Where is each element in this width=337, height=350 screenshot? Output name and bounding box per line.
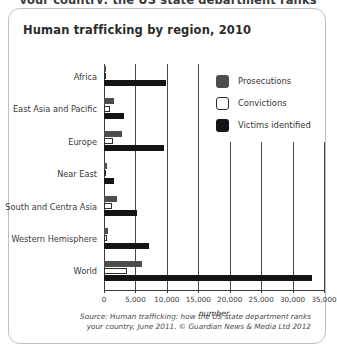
- x-tick-label-20000: 20,000: [217, 295, 242, 304]
- source-line-1: Source: Human trafficking: how the US st…: [80, 312, 311, 321]
- x-tick-label-5000: 5,000: [125, 295, 146, 304]
- y-axis-label: Europe: [68, 137, 97, 147]
- y-axis-label: Africa: [74, 72, 97, 82]
- chart-legend: Prosecutions Convictions Victims identif…: [216, 70, 311, 136]
- bar-prosecutions: [104, 66, 106, 72]
- bar-victims-identified: [104, 243, 149, 249]
- clipped-header-text: your country: the US state department ra…: [0, 0, 336, 4]
- bar-prosecutions: [104, 98, 114, 104]
- legend-item-convictions: Convictions: [216, 92, 311, 114]
- bar-prosecutions: [104, 163, 107, 169]
- y-axis-label: World: [74, 266, 97, 276]
- bar-victims-identified: [104, 80, 166, 86]
- bar-prosecutions: [104, 196, 117, 202]
- bar-group: Western Hemisphere: [104, 228, 324, 260]
- gridline-35000: [324, 142, 325, 291]
- bar-convictions: [104, 268, 127, 274]
- source-line-2: your country, June 2011. © Guardian News…: [87, 322, 311, 331]
- x-tick-label-35000: 35,000: [311, 295, 336, 304]
- bar-group: World: [104, 261, 324, 293]
- bar-convictions: [104, 138, 113, 144]
- chart-title: Human trafficking by region, 2010: [23, 23, 251, 37]
- y-axis-label: Western Hemisphere: [11, 234, 97, 244]
- y-axis-label: Near East: [57, 169, 97, 179]
- convictions-swatch-icon: [216, 97, 229, 110]
- bar-prosecutions: [104, 131, 122, 137]
- x-tick-label-10000: 10,000: [154, 295, 179, 304]
- victims-swatch-icon: [216, 119, 229, 132]
- bar-victims-identified: [104, 113, 124, 119]
- bar-victims-identified: [104, 275, 312, 281]
- bar-convictions: [104, 235, 107, 241]
- bar-victims-identified: [104, 145, 164, 151]
- legend-label-convictions: Convictions: [238, 98, 287, 108]
- x-tick-label-25000: 25,000: [249, 295, 274, 304]
- tick-35000: [324, 289, 325, 293]
- chart-card: Human trafficking by region, 2010 05,000…: [8, 8, 326, 344]
- bar-convictions: [104, 73, 106, 79]
- bar-victims-identified: [104, 178, 114, 184]
- x-tick-label-0: 0: [102, 295, 107, 304]
- bar-convictions: [104, 203, 112, 209]
- legend-item-victims: Victims identified: [216, 114, 311, 136]
- bar-convictions: [104, 170, 106, 176]
- bar-prosecutions: [104, 261, 142, 267]
- plot-area: 05,00010,00015,00020,00025,00030,00035,0…: [104, 64, 324, 291]
- x-tick-label-15000: 15,000: [186, 295, 211, 304]
- source-note: Source: Human trafficking: how the US st…: [76, 312, 311, 333]
- y-axis-label: East Asia and Pacific: [13, 104, 97, 114]
- bar-convictions: [104, 106, 110, 112]
- prosecutions-swatch-icon: [216, 75, 229, 88]
- legend-label-victims: Victims identified: [238, 120, 311, 130]
- legend-item-prosecutions: Prosecutions: [216, 70, 311, 92]
- bar-victims-identified: [104, 210, 137, 216]
- bar-group: Near East: [104, 163, 324, 195]
- bar-group: South and Centra Asia: [104, 196, 324, 228]
- x-tick-label-30000: 30,000: [280, 295, 305, 304]
- legend-label-prosecutions: Prosecutions: [238, 76, 291, 86]
- bar-prosecutions: [104, 228, 108, 234]
- y-axis-label: South and Centra Asia: [5, 202, 97, 212]
